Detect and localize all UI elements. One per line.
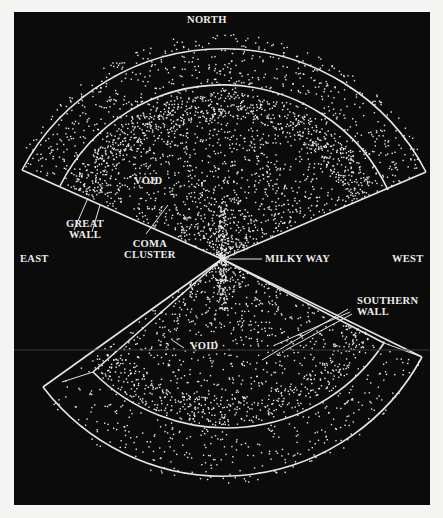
great-wall-line-2: WALL [66,229,104,240]
southern-wall-line-1: SOUTHERN [357,295,418,306]
galaxy-map-panel: NORTH EAST WEST MILKY WAY VOID VOID GREA… [14,12,430,505]
north-left-edge [22,170,222,259]
galaxy-redshift-survey-map [14,12,430,505]
southern-wall-label: SOUTHERN WALL [357,295,418,317]
great-wall-label: GREAT WALL [66,218,104,240]
southern-wall-line-2: WALL [357,306,418,317]
southern-wall-pointer-1 [262,309,348,360]
southern-wall-pointer-2 [275,312,350,345]
void-north-label: VOID [134,175,162,186]
south-inner-arc [93,343,384,428]
void-south-label: VOID [190,340,218,351]
south-outer-arc [43,357,422,476]
north-label: NORTH [187,14,227,25]
great-wall-line-1: GREAT [66,218,104,229]
east-label: EAST [20,253,49,264]
void-south-pointer [172,340,184,348]
milky-way-label: MILKY WAY [265,253,330,264]
west-label: WEST [392,253,424,264]
south-left-notch [62,372,93,382]
coma-cluster-line-1: COMA [124,238,176,249]
south-left-edge [43,259,222,387]
coma-cluster-line-2: CLUSTER [124,249,176,260]
coma-cluster-label: COMA CLUSTER [124,238,176,260]
north-right-edge [222,172,426,259]
